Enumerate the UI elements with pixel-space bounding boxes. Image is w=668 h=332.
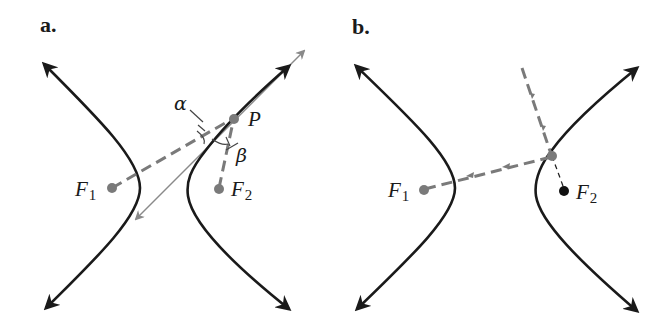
reflection-point: [547, 151, 557, 161]
focal-radius-f1-p: [112, 119, 232, 188]
panel-a: a. α β P F1 F2: [40, 12, 304, 309]
hyperbola-left-branch: [44, 64, 140, 308]
point-p: [229, 114, 239, 124]
panel-b: b. F1 F2: [352, 14, 637, 311]
f1-label-b: F1: [387, 178, 409, 204]
f2-label-a: F2: [230, 177, 252, 203]
alpha-leader: [190, 110, 203, 122]
f2-label-b: F2: [575, 180, 597, 206]
p-label: P: [247, 107, 261, 131]
incoming-ray: [522, 68, 551, 154]
focus-f1-a: [107, 183, 117, 193]
focus-f2-b: [559, 186, 569, 196]
panel-a-label: a.: [40, 12, 57, 37]
reflected-ray-arrow-1: [502, 163, 510, 169]
incoming-ray-arrow-2: [541, 125, 546, 131]
alpha-tick: [198, 125, 205, 131]
f1-label-a: F1: [74, 177, 96, 203]
incoming-ray-arrow-1: [530, 93, 535, 99]
beta-label: β: [235, 144, 247, 166]
hyperbola-reflection-figure: a. α β P F1 F2 b.: [0, 0, 668, 332]
alpha-label: α: [174, 92, 187, 114]
focus-f2-a: [214, 184, 224, 194]
panel-b-label: b.: [352, 14, 370, 39]
reflected-ray: [425, 157, 551, 189]
focus-f1-b: [419, 185, 429, 195]
